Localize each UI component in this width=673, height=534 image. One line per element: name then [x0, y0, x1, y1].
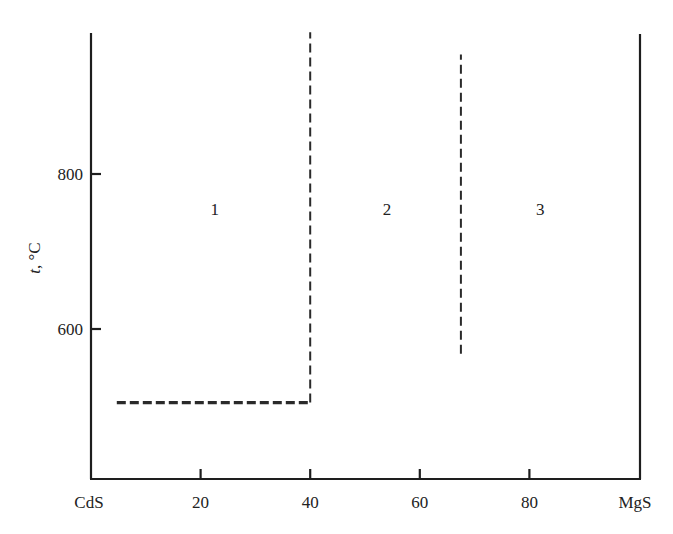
x-tick-label: 40 — [302, 493, 319, 512]
y-axis-title: t, °C — [25, 242, 44, 273]
x-axis-left-end-label: CdS — [74, 493, 103, 512]
x-tick-label: 80 — [521, 493, 538, 512]
boundary-lines — [117, 32, 461, 402]
x-tick-label: 60 — [411, 493, 428, 512]
y-tick-label: 800 — [58, 165, 84, 184]
phase-diagram-chart: 60080020406080CdSMgSt, °C123 — [0, 0, 673, 534]
y-axis-unit: , °C — [25, 242, 44, 269]
region-label-1: 1 — [211, 200, 220, 219]
x-tick-label: 20 — [192, 493, 209, 512]
region-label-2: 2 — [383, 200, 392, 219]
y-tick-label: 600 — [58, 320, 84, 339]
region-label-3: 3 — [536, 200, 545, 219]
axes — [90, 33, 641, 479]
labels: 60080020406080CdSMgSt, °C123 — [25, 165, 652, 512]
x-axis-right-end-label: MgS — [618, 493, 651, 512]
